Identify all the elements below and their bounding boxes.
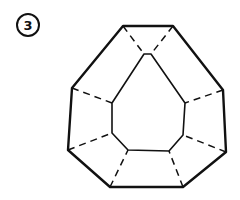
outer-outline bbox=[68, 26, 226, 187]
facet-connector-line bbox=[72, 88, 112, 103]
facet-connector-line bbox=[185, 90, 223, 103]
facet-connector-line bbox=[123, 26, 144, 54]
facet-connector-line bbox=[110, 150, 128, 187]
facet-connector-line bbox=[68, 133, 112, 150]
facet-connector-line bbox=[183, 135, 226, 152]
gem-facet-diagram bbox=[0, 0, 240, 200]
facet-connector-line bbox=[151, 26, 173, 54]
dashed-facet-lines bbox=[68, 26, 226, 187]
inner-table-outline bbox=[112, 54, 185, 151]
facet-connector-line bbox=[169, 151, 183, 187]
